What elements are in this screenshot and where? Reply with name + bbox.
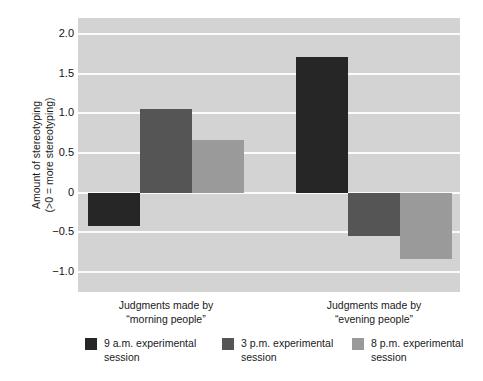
gridline: [78, 152, 460, 154]
bar: [192, 140, 244, 192]
legend-label: 8 p.m. experimental session: [371, 337, 463, 364]
gridline: [78, 112, 460, 114]
legend-label: 3 p.m. experimental session: [241, 337, 333, 364]
bar-chart-figure: Amount of stereotyping (>0 = more stereo…: [0, 0, 483, 381]
bar: [88, 193, 140, 226]
legend-item: 3 p.m. experimental session: [222, 337, 333, 364]
legend-label: 9 a.m. experimental session: [104, 337, 196, 364]
gridline: [78, 73, 460, 75]
y-axis-tick-labels: 2.01.51.00.50−0.5−1.0: [31, 0, 74, 381]
gridline: [78, 33, 460, 35]
y-axis-tick-label: 1.5: [34, 68, 74, 79]
y-axis-tick-label: −0.5: [34, 226, 74, 237]
bar: [140, 109, 192, 193]
y-axis-title-wrapper: Amount of stereotyping (>0 = more stereo…: [0, 18, 34, 292]
y-axis-tick-label: −1.0: [34, 266, 74, 277]
y-axis-tick-label: 2.0: [34, 28, 74, 39]
bar: [296, 57, 348, 193]
y-axis-tick-label: 1.0: [34, 107, 74, 118]
legend-item: 8 p.m. experimental session: [352, 337, 463, 364]
plot-area: [78, 18, 460, 292]
bar: [348, 193, 400, 237]
bar: [400, 193, 452, 260]
chart-legend: 9 a.m. experimental session3 p.m. experi…: [0, 337, 483, 381]
legend-swatch-icon: [85, 338, 97, 350]
x-axis-category-label: Judgments made by “morning people”: [86, 299, 246, 326]
gridline: [78, 271, 460, 273]
legend-swatch-icon: [222, 338, 234, 350]
y-axis-tick-label: 0.5: [34, 147, 74, 158]
legend-swatch-icon: [352, 338, 364, 350]
x-axis-category-label: Judgments made by “evening people”: [294, 299, 454, 326]
legend-item: 9 a.m. experimental session: [85, 337, 196, 364]
y-axis-tick-label: 0: [34, 187, 74, 198]
